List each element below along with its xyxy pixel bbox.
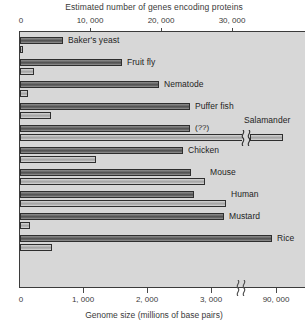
- bottom-tick-label-0: 0: [19, 295, 23, 304]
- bottom-tick-label-2000: 2, 000: [136, 295, 158, 304]
- genome-bar-salamander-segment-left: [20, 134, 242, 141]
- genes-bar-human: [20, 191, 194, 198]
- top-tick-label-30000: 30, 000: [219, 16, 246, 25]
- genes-bar-mustard: [20, 213, 224, 220]
- genome-bar-chicken: [20, 156, 96, 163]
- bottom-tick-label-3000: 3, 000: [200, 295, 222, 304]
- bottom-tick-label-1000: 1, 000: [72, 295, 94, 304]
- bottom-axis-line: [19, 287, 305, 288]
- genes-bar-puffer-fish: [20, 103, 190, 110]
- genes-bar-mouse: [20, 169, 191, 176]
- top-axis: 0 10, 000 20, 000 30, 000: [0, 16, 308, 32]
- bottom-tick-mark-3000: [211, 288, 212, 293]
- top-tick-label-0: 0: [19, 16, 23, 25]
- bar-label-nematode: Nematode: [164, 79, 204, 89]
- genome-bar-salamander-segment-right: [250, 134, 283, 141]
- bottom-tick-mark-1000: [83, 288, 84, 293]
- top-axis-title: Estimated number of genes encoding prote…: [0, 2, 308, 12]
- bars-area: Baker's yeast Fruit fly Nematode Puffer …: [20, 32, 305, 287]
- genome-bar-fruit-fly: [20, 68, 34, 75]
- genes-bar-nematode: [20, 81, 159, 88]
- genome-bar-puffer-fish: [20, 112, 51, 119]
- bottom-axis: 0 1, 000 2, 000 3, 000 90, 000: [0, 288, 308, 312]
- bar-label-mustard: Mustard: [229, 211, 260, 221]
- bar-label-mouse: Mouse: [210, 167, 236, 177]
- bar-label-puffer-fish: Puffer fish: [195, 101, 234, 111]
- genome-bar-mouse: [20, 178, 205, 185]
- bottom-tick-label-90000: 90, 000: [263, 295, 290, 304]
- genome-bar-nematode: [20, 90, 28, 97]
- bar-label-rice: Rice: [277, 233, 294, 243]
- genes-bar-salamander: [20, 125, 190, 132]
- bottom-tick-mark-90000: [276, 288, 277, 293]
- bar-label-chicken: Chicken: [188, 145, 219, 155]
- genes-bar-chicken: [20, 147, 183, 154]
- genome-bar-bakers-yeast: [20, 46, 23, 53]
- bottom-axis-title: Genome size (millions of base pairs): [0, 310, 308, 320]
- genome-bar-rice: [20, 244, 52, 251]
- bar-label-bakers-yeast: Baker's yeast: [68, 35, 119, 45]
- genome-bar-human: [20, 200, 226, 207]
- genes-bar-bakers-yeast: [20, 37, 63, 44]
- top-tick-label-20000: 20, 000: [148, 16, 175, 25]
- genome-comparison-chart: Estimated number of genes encoding prote…: [0, 0, 308, 330]
- bar-label-salamander: Salamander: [244, 115, 290, 125]
- bar-label-fruit-fly: Fruit fly: [127, 57, 155, 67]
- genome-bar-mustard: [20, 222, 30, 229]
- salamander-uncertainty-annotation: (??): [195, 123, 209, 132]
- plot-panel: Baker's yeast Fruit fly Nematode Puffer …: [19, 31, 305, 288]
- bar-label-human: Human: [231, 189, 259, 199]
- top-tick-label-10000: 10, 000: [77, 16, 104, 25]
- axis-break-squiggle-bottom: [230, 280, 252, 296]
- genes-bar-rice: [20, 235, 272, 242]
- genes-bar-fruit-fly: [20, 59, 122, 66]
- bottom-tick-mark-2000: [147, 288, 148, 293]
